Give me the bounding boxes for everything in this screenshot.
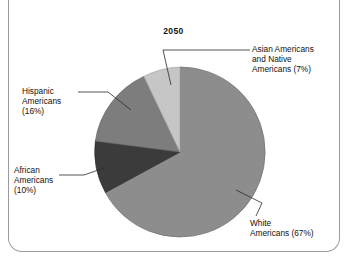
pie-label-white-americans: White Americans (67%) — [250, 218, 345, 238]
pie-label-hispanic-americans: Hispanic Americans (16%) — [22, 86, 102, 117]
pie-label-african-americans: African Americans (10%) — [14, 165, 94, 196]
pie-label-asian-native-americans: Asian Americans and Native Americans (7%… — [252, 44, 346, 75]
pie-chart-figure: 2050 Asian Americans and Native American… — [0, 0, 347, 268]
